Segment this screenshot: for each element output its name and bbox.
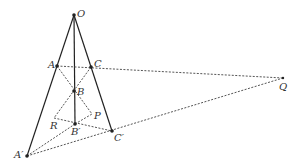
point-Q <box>282 77 284 79</box>
line-OA-prime <box>27 15 74 156</box>
label-A-prime: A′ <box>14 150 24 160</box>
point-O <box>72 13 76 17</box>
line-OC-prime <box>74 15 112 131</box>
line-CR <box>54 67 91 118</box>
diagram-canvas: O A C B B′ C′ A′ R P Q <box>0 0 300 167</box>
point-A <box>55 64 59 68</box>
line-OB-prime <box>74 15 75 124</box>
line-B-prime-P <box>75 114 92 124</box>
line-A-prime-Q <box>27 78 283 156</box>
label-B: B <box>77 87 84 97</box>
label-R: R <box>50 121 58 131</box>
label-C: C <box>94 59 102 69</box>
point-A-prime <box>25 154 29 158</box>
geometry-figure <box>0 0 300 167</box>
label-O: O <box>77 9 85 19</box>
line-RC-prime <box>54 118 112 131</box>
label-C-prime: C′ <box>114 133 124 143</box>
point-C <box>89 65 93 69</box>
label-P: P <box>94 111 101 121</box>
point-B <box>72 89 76 93</box>
label-A: A <box>48 60 55 70</box>
label-B-prime: B′ <box>71 127 81 137</box>
label-Q: Q <box>279 82 287 92</box>
